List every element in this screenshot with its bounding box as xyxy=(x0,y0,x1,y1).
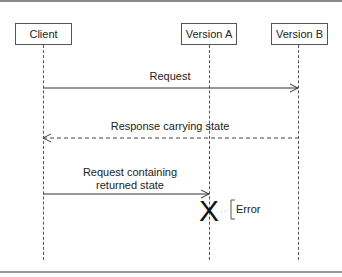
error-annotation: Error xyxy=(236,203,260,215)
message-label-request-state-line1: Request containing xyxy=(60,166,200,179)
message-arrows xyxy=(0,0,342,277)
arrow-response-carrying-state xyxy=(43,134,298,142)
bottom-border-rule xyxy=(0,271,342,273)
arrow-request xyxy=(43,84,298,92)
message-label-request-state-line2: returned state xyxy=(60,179,200,192)
message-label-response: Response carrying state xyxy=(60,120,280,133)
termination-x-icon: X xyxy=(199,196,219,226)
message-label-request: Request xyxy=(110,70,230,83)
error-bracket xyxy=(221,200,235,219)
